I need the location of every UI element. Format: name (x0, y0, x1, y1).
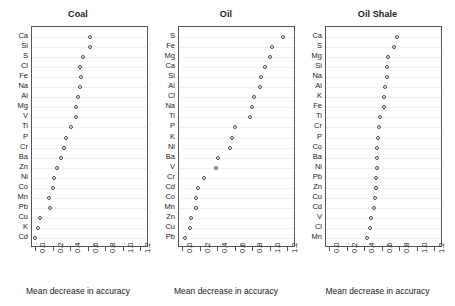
y-axis-label: Ca (165, 62, 175, 70)
y-axis-label: Mg (18, 102, 28, 110)
y-axis-label: Cu (312, 193, 322, 201)
y-axis-label: Mn (312, 233, 322, 241)
plot-area (31, 26, 148, 247)
y-axis-label: Fe (313, 102, 322, 110)
x-axis-tick-label: 0.6 (92, 243, 100, 253)
y-axis-label: Cr (314, 122, 322, 130)
gridline (326, 67, 441, 68)
x-axis-tick-label: 0.4 (221, 243, 229, 253)
y-axis-label: Pb (19, 203, 28, 211)
x-axis-tick-label: 0.2 (57, 243, 65, 253)
gridline (326, 218, 441, 219)
panel-title: Coal (4, 9, 152, 20)
x-axis-tick (270, 247, 271, 251)
data-point (62, 146, 66, 150)
gridline (326, 47, 441, 48)
x-axis-tick (53, 247, 54, 251)
gridline (179, 47, 294, 48)
y-axis-label: K (170, 133, 175, 141)
y-axis-label: Ti (22, 122, 28, 130)
data-point (55, 166, 59, 170)
data-point (48, 206, 52, 210)
data-point (233, 125, 237, 129)
data-point (188, 226, 192, 230)
x-axis-tick (399, 247, 400, 251)
y-axis-label: V (317, 213, 322, 221)
x-axis-tick-label: 0.0 (186, 243, 194, 253)
y-axis-label: P (23, 133, 28, 141)
gridline (32, 238, 147, 239)
y-axis-tick-labels: SFeMgCaSiAlClNaTiPKNiBaVCrCdCoMnZnCuPb (152, 26, 175, 247)
data-point (252, 95, 256, 99)
gridline (32, 138, 147, 139)
gridline (32, 117, 147, 118)
panel-title: Oil (152, 9, 300, 20)
gridline (32, 87, 147, 88)
x-axis-tick (200, 247, 201, 251)
gridline (179, 77, 294, 78)
y-axis-label: Na (312, 72, 322, 80)
y-axis-label: Cl (168, 92, 175, 100)
y-axis-label: Cd (18, 233, 28, 241)
x-axis-tick-label: 0.0 (333, 243, 341, 253)
gridline (179, 218, 294, 219)
data-point (183, 236, 187, 240)
gridline (179, 148, 294, 149)
x-axis-tick (364, 247, 365, 251)
gridline (32, 107, 147, 108)
data-point (382, 105, 386, 109)
data-point (248, 115, 252, 119)
gridline (326, 117, 441, 118)
data-point (194, 206, 198, 210)
gridline (179, 238, 294, 239)
gridline (32, 178, 147, 179)
data-point (268, 55, 272, 59)
gridline (32, 168, 147, 169)
gridline (326, 57, 441, 58)
data-point (69, 125, 73, 129)
y-axis-label: Si (21, 42, 28, 50)
x-axis-tick-label: 0.4 (368, 243, 376, 253)
gridline (179, 168, 294, 169)
y-axis-label: Mg (312, 52, 322, 60)
y-axis-label: Mn (165, 203, 175, 211)
data-point (59, 156, 63, 160)
random-forest-importance-figure: CoalCaSiSClFeNaAlMgVTiPCrBaZnNiCoMnPbCuK… (0, 0, 455, 306)
data-point (368, 226, 372, 230)
data-point (36, 226, 40, 230)
x-axis-tick-label: 1.0 (274, 243, 282, 253)
x-axis-tick (329, 247, 330, 251)
x-axis-tick-label: 0.8 (109, 243, 117, 253)
gridline (326, 158, 441, 159)
data-point (395, 35, 399, 39)
data-point (202, 176, 206, 180)
x-axis-tick (252, 247, 253, 251)
y-axis-label: V (170, 163, 175, 171)
y-axis-label: Al (168, 82, 175, 90)
data-point (74, 115, 78, 119)
gridline (326, 168, 441, 169)
x-axis-tick (182, 247, 183, 251)
x-axis-tick (35, 247, 36, 251)
data-point (81, 55, 85, 59)
y-axis-label: Co (312, 143, 322, 151)
data-point (258, 85, 262, 89)
data-point (378, 115, 382, 119)
y-axis-label: Cd (312, 203, 322, 211)
gridline (32, 127, 147, 128)
y-axis-label: Si (168, 72, 175, 80)
y-axis-label: V (23, 112, 28, 120)
y-axis-label: Fe (19, 72, 28, 80)
gridline (32, 228, 147, 229)
data-point (377, 125, 381, 129)
x-axis-tick-label: 0.2 (204, 243, 212, 253)
gridline (32, 158, 147, 159)
x-axis-tick-label: 0.6 (239, 243, 247, 253)
y-axis-label: Cu (18, 213, 28, 221)
gridline (32, 57, 147, 58)
gridline (326, 238, 441, 239)
plot-area (178, 26, 295, 247)
data-point (88, 45, 92, 49)
y-axis-label: Zn (313, 183, 322, 191)
gridline (179, 37, 294, 38)
